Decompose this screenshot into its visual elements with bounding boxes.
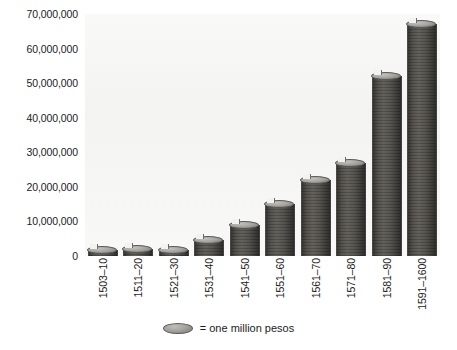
x-axis-tick-label: 1511–20 <box>123 258 153 301</box>
x-axis-tick-text: 1531–40 <box>203 258 215 298</box>
coin-stack <box>265 204 295 256</box>
coin-notch <box>409 18 417 23</box>
y-axis-tick-label: 20,000,000 <box>26 181 78 193</box>
x-axis-tick-label: 1561–70 <box>301 258 331 302</box>
legend-label: = one million pesos <box>200 322 294 334</box>
bar-1511-20 <box>123 249 153 256</box>
x-axis-tick-text: 1551–60 <box>274 258 286 298</box>
coin-notch <box>374 70 382 75</box>
bar-1591-1600 <box>407 24 437 256</box>
coin-notch <box>196 234 204 239</box>
coin-notch <box>267 198 275 203</box>
coin-notch <box>303 174 311 179</box>
coin-notch <box>338 157 346 162</box>
coin-stack <box>407 24 437 256</box>
x-axis-tick-label: 1591–1600 <box>407 258 437 314</box>
x-axis-tick-text: 1561–70 <box>310 258 322 298</box>
x-axis: 1503–101511–201521–301531–401541–501551–… <box>85 258 440 330</box>
x-axis-tick-label: 1581–90 <box>372 258 402 302</box>
x-axis-tick-text: 1521–30 <box>168 258 180 298</box>
x-axis-tick-label: 1521–30 <box>159 258 189 302</box>
x-axis-tick-label: 1571–80 <box>336 258 366 302</box>
y-axis-tick-label: 60,000,000 <box>26 43 78 55</box>
x-axis-tick-label: 1503–10 <box>88 258 118 302</box>
x-axis-tick-text: 1591–1600 <box>416 258 428 310</box>
bar-1581-90 <box>372 76 402 256</box>
coin-notch <box>90 244 98 249</box>
x-axis-tick-text: 1511–20 <box>132 258 144 297</box>
coin-notch <box>161 244 169 249</box>
x-axis-tick-text: 1581–90 <box>381 258 393 298</box>
y-axis-tick-label: 40,000,000 <box>26 112 78 124</box>
coin-stack <box>230 225 260 256</box>
x-axis-tick-label: 1551–60 <box>265 258 295 302</box>
y-axis: 70,000,00060,000,00050,000,00040,000,000… <box>0 0 85 270</box>
x-axis-tick-text: 1541–50 <box>239 258 251 298</box>
coin-notch <box>125 243 133 248</box>
bar-1561-70 <box>301 180 331 256</box>
coin-notch <box>232 219 240 224</box>
bar-1503-10 <box>88 250 118 256</box>
y-axis-tick-label: 0 <box>72 250 78 262</box>
y-axis-tick-label: 10,000,000 <box>26 215 78 227</box>
x-axis-tick-text: 1503–10 <box>97 258 109 298</box>
coin-stack <box>301 180 331 256</box>
bar-1521-30 <box>159 250 189 256</box>
y-axis-tick-label: 70,000,000 <box>26 8 78 20</box>
y-axis-tick-label: 30,000,000 <box>26 146 78 158</box>
y-axis-tick-label: 50,000,000 <box>26 77 78 89</box>
x-axis-tick-label: 1541–50 <box>230 258 260 302</box>
bar-1531-40 <box>194 240 224 256</box>
coin-stack <box>336 163 366 256</box>
bar-1541-50 <box>230 225 260 256</box>
x-axis-tick-text: 1571–80 <box>345 258 357 298</box>
coin-stack <box>372 76 402 256</box>
bars-layer <box>85 14 440 256</box>
coin-icon <box>163 323 193 334</box>
chart-legend: = one million pesos <box>0 322 457 334</box>
x-axis-tick-label: 1531–40 <box>194 258 224 302</box>
coin-stack-bar-chart: 70,000,00060,000,00050,000,00040,000,000… <box>0 0 457 350</box>
bar-1571-80 <box>336 163 366 256</box>
bar-1551-60 <box>265 204 295 256</box>
